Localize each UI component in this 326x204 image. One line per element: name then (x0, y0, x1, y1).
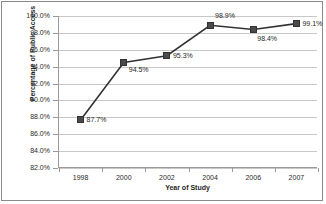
x-axis-tick-mark (102, 168, 103, 172)
y-axis-tick-label: 98.0% (2, 29, 50, 37)
y-axis-tick-label: 86.0% (2, 130, 50, 138)
x-axis-tick-label: 2004 (187, 174, 233, 181)
x-axis-tick-mark (145, 168, 146, 172)
x-axis-tick-mark (232, 168, 233, 172)
series-line (59, 16, 318, 168)
y-axis-tick-label: 96.0% (2, 46, 50, 54)
x-axis-tick-label: 2007 (273, 174, 319, 181)
chart-container: Percentage of Public Access 100.0%98.0%9… (1, 1, 323, 201)
data-point-marker (207, 22, 214, 29)
x-axis-tick-label: 2006 (230, 174, 276, 181)
x-axis-tick-mark (59, 168, 60, 172)
data-point-marker (293, 20, 300, 27)
data-point-label: 94.5% (129, 66, 149, 74)
x-axis-title: Year of Study (58, 184, 317, 191)
y-axis-tick-label: 100.0% (2, 12, 50, 20)
y-axis-tick-label: 94.0% (2, 63, 50, 71)
data-point-marker (163, 52, 170, 59)
y-axis-tick-label: 82.0% (2, 164, 50, 172)
data-point-label: 95.3% (173, 52, 193, 60)
x-axis-tick-label: 1998 (58, 174, 104, 181)
data-point-marker (250, 26, 257, 33)
data-point-label: 99.1% (302, 20, 322, 28)
x-axis-tick-label: 2000 (101, 174, 147, 181)
y-axis-tick-label: 92.0% (2, 80, 50, 88)
data-point-label: 98.4% (257, 35, 277, 43)
x-axis-tick-mark (318, 168, 319, 172)
x-axis-tick-mark (189, 168, 190, 172)
y-axis-tick-label: 90.0% (2, 96, 50, 104)
y-axis-tick-label: 84.0% (2, 147, 50, 155)
data-point-marker (120, 59, 127, 66)
x-axis-tick-label: 2002 (144, 174, 190, 181)
y-axis-tick-label: 88.0% (2, 113, 50, 121)
data-point-label: 98.9% (215, 12, 235, 20)
x-axis-tick-mark (275, 168, 276, 172)
plot-area: 87.7%94.5%95.3%98.9%98.4%99.1% 199820002… (58, 16, 317, 168)
data-point-label: 87.7% (87, 116, 107, 124)
data-point-marker (77, 116, 84, 123)
y-axis-tick-mark (53, 168, 58, 169)
